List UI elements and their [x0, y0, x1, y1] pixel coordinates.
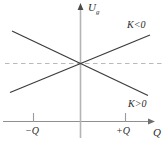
y-axis-label-subscript: g — [96, 8, 100, 16]
chart-figure: Ug Q −Q +Q K<0 K>0 — [0, 0, 167, 143]
curve-label-k-positive: K>0 — [128, 99, 146, 109]
curve-label-k-negative: K<0 — [127, 20, 145, 30]
x-tick-label-positive-q: +Q — [116, 126, 130, 136]
y-axis-label: Ug — [88, 2, 99, 16]
x-tick-label-negative-q: −Q — [25, 126, 39, 136]
y-axis-label-main: U — [88, 1, 96, 13]
x-axis-label: Q — [153, 127, 161, 138]
y-axis-arrowhead — [78, 3, 84, 10]
x-axis-arrowhead — [148, 118, 155, 124]
